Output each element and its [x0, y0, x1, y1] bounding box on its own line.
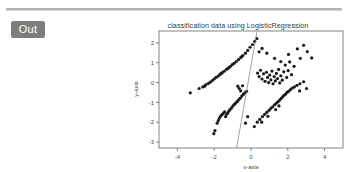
svg-text:1: 1: [151, 60, 155, 66]
svg-text:2: 2: [151, 40, 155, 46]
output-cell-label: Out: [11, 21, 45, 38]
scatter-plot: -4-2024 210-1-2-3 x-axis y-axis: [128, 18, 348, 172]
svg-text:-2: -2: [149, 119, 155, 125]
svg-text:4: 4: [323, 154, 327, 160]
svg-text:-1: -1: [149, 100, 155, 106]
matplotlib-figure: classification data using LogisticRegres…: [128, 18, 348, 172]
y-axis-label: y-axis: [133, 81, 139, 97]
x-axis-ticks: -4-2024: [175, 148, 327, 160]
y-axis-ticks: 210-1-2-3: [149, 40, 159, 145]
svg-text:0: 0: [249, 154, 253, 160]
x-axis-label: x-axis: [243, 164, 259, 170]
svg-text:-4: -4: [175, 154, 181, 160]
svg-text:0: 0: [151, 80, 155, 86]
svg-text:-3: -3: [149, 139, 155, 145]
notebook-divider: [6, 8, 342, 11]
svg-text:2: 2: [286, 154, 290, 160]
svg-text:-2: -2: [212, 154, 218, 160]
